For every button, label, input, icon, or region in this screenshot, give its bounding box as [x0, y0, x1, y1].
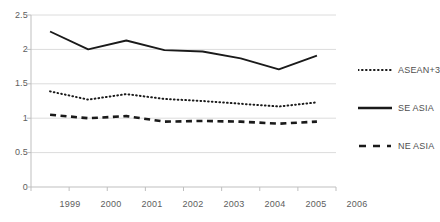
legend-item-asean3: ASEAN+3 [358, 64, 440, 76]
legend-item-se-asia: SE ASIA [358, 102, 434, 114]
legend-label: ASEAN+3 [398, 65, 440, 75]
series-line-asean-3 [50, 91, 317, 106]
dashed-line-icon [358, 141, 392, 151]
legend-item-ne-asia: NE ASIA [358, 140, 434, 152]
series-line-ne-asia [50, 115, 317, 124]
legend-label: NE ASIA [398, 141, 434, 151]
dotted-line-icon [358, 65, 392, 75]
solid-line-icon [358, 103, 392, 113]
series-line-se-asia [50, 32, 317, 70]
legend-label: SE ASIA [398, 103, 434, 113]
